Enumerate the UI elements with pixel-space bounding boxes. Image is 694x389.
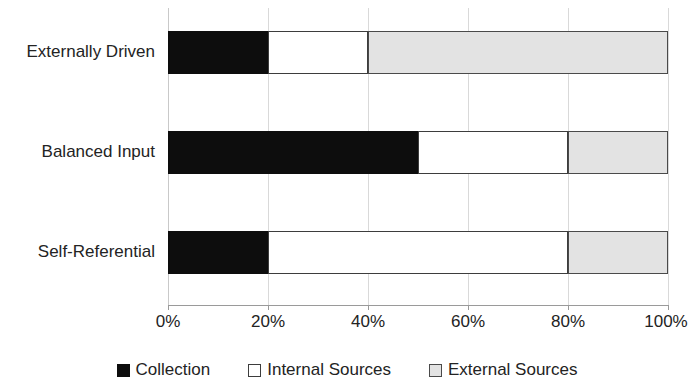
category-label-text: Self-Referential [38,242,155,261]
legend-label-external-sources: External Sources [448,360,577,380]
legend-item-collection: Collection [117,360,211,380]
legend-label-collection: Collection [136,360,211,380]
category-label-externally-driven: Externally Driven [0,42,155,62]
x-axis-line [168,305,669,306]
x-tick-label-0: 0% [128,312,208,332]
x-tick-label-20: 20% [228,312,308,332]
plot-area [168,8,668,305]
legend-swatch-collection-icon [117,364,130,377]
legend-item-internal-sources: Internal Sources [248,360,391,380]
x-tick-label-80: 80% [528,312,608,332]
bar-externally-driven [168,31,668,74]
bar-segment-external-sources [568,131,668,174]
chart-legend: Collection Internal Sources External Sou… [0,360,694,380]
x-tick-80 [568,305,569,310]
x-tick-label-text: 40% [351,312,385,331]
x-tick-label-text: 100% [644,312,687,331]
bar-segment-external-sources [568,231,668,274]
x-tick-100 [668,305,669,310]
bar-segment-collection [168,31,268,74]
x-tick-60 [468,305,469,310]
x-tick-label-text: 80% [551,312,585,331]
category-label-text: Externally Driven [27,42,156,61]
x-tick-label-60: 60% [428,312,508,332]
legend-swatch-internal-sources-icon [248,364,261,377]
bar-segment-internal-sources [418,131,568,174]
legend-swatch-external-sources-icon [429,364,442,377]
legend-label-internal-sources: Internal Sources [267,360,391,380]
legend-item-external-sources: External Sources [429,360,577,380]
x-tick-20 [268,305,269,310]
x-tick-40 [368,305,369,310]
x-tick-label-text: 0% [156,312,181,331]
x-tick-label-text: 60% [451,312,485,331]
x-tick-label-100: 100% [626,312,694,332]
bar-segment-collection [168,231,268,274]
bar-segment-internal-sources [268,31,368,74]
x-tick-label-text: 20% [251,312,285,331]
bar-segment-internal-sources [268,231,568,274]
x-tick-label-40: 40% [328,312,408,332]
category-label-self-referential: Self-Referential [0,242,155,262]
bar-segment-collection [168,131,418,174]
gridline-100 [668,8,669,305]
bar-self-referential [168,231,668,274]
bar-segment-external-sources [368,31,668,74]
x-tick-0 [168,305,169,310]
category-label-text: Balanced Input [42,142,155,161]
stacked-bar-chart: Externally Driven Balanced Input Self-Re… [0,0,694,389]
bar-balanced-input [168,131,668,174]
category-label-balanced-input: Balanced Input [0,142,155,162]
